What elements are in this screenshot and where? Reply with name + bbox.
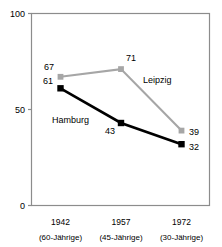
x-axis-sublabel-1972: (30-Jährige) <box>160 233 203 242</box>
y-axis-label-100: 100 <box>10 9 25 19</box>
data-point-hamburg-1957 <box>118 120 124 126</box>
data-point-leipzig-1942 <box>58 74 64 80</box>
series-label-hamburg: Hamburg <box>52 115 89 125</box>
y-axis-label-50: 50 <box>15 105 25 115</box>
point-label-hamburg-1957: 43 <box>105 126 115 136</box>
x-axis-label-1942: 1942 <box>51 217 70 227</box>
data-point-hamburg-1942 <box>57 85 63 91</box>
point-label-hamburg-1972: 32 <box>189 142 199 152</box>
data-point-hamburg-1972 <box>178 141 184 147</box>
data-point-leipzig-1957 <box>118 66 124 72</box>
chart-background <box>0 0 222 247</box>
x-axis-label-1972: 1972 <box>172 217 191 227</box>
x-axis-sublabel-1957: (45-Jährige) <box>99 233 142 242</box>
series-label-leipzig: Leipzig <box>143 75 172 85</box>
point-label-leipzig-1942: 67 <box>44 62 54 72</box>
data-point-leipzig-1972 <box>179 128 185 134</box>
line-chart: 100 50 0 67 71 39 61 43 32 Hamburg Leipz… <box>0 0 222 247</box>
point-label-hamburg-1942: 61 <box>43 76 53 86</box>
chart-svg: 100 50 0 67 71 39 61 43 32 Hamburg Leipz… <box>0 0 222 247</box>
y-axis-label-0: 0 <box>20 201 25 211</box>
point-label-leipzig-1957: 71 <box>126 53 136 63</box>
point-label-leipzig-1972: 39 <box>189 127 199 137</box>
x-axis-label-1957: 1957 <box>112 217 131 227</box>
x-axis-sublabel-1942: (60-Jährige) <box>39 233 82 242</box>
